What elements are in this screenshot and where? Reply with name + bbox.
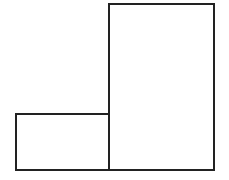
small-rectangle: [15, 113, 110, 171]
large-rectangle: [108, 3, 215, 171]
diagram-canvas: [0, 0, 229, 180]
